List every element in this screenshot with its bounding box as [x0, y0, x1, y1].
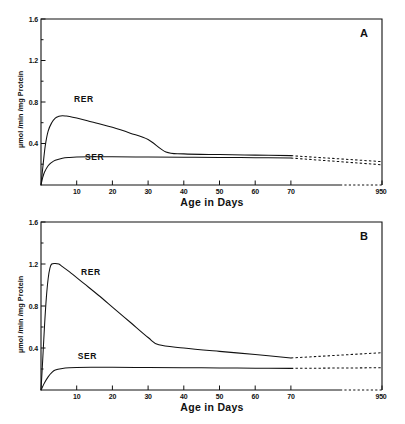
panel-a-y-axis-title: µmol /min /mg Protein [16, 71, 25, 148]
panel-b-xtick-60: 60 [252, 393, 260, 400]
panel-b-series-rer-dashed [291, 353, 382, 358]
panel-a-xtick-950: 950 [375, 188, 386, 195]
panel-a-series-ser-line [41, 157, 291, 185]
panel-a-series-label-rer: RER [74, 94, 94, 104]
panel-b-ytick-4: 0.4 [29, 345, 38, 352]
panel-a-xtick-60: 60 [252, 188, 260, 195]
figure-two-panel-chart: 1.6 1.2 0.8 0.4 µmol /min /mg Protein 10… [0, 0, 405, 424]
panel-a-x-axis-title: Age in Days [180, 196, 243, 208]
panel-a-xtick-10: 10 [73, 188, 81, 195]
panel-b-xtick-20: 20 [109, 393, 117, 400]
panel-b-ytick-2: 1.2 [29, 261, 38, 268]
panel-b-ytick-1: 1.6 [29, 219, 38, 226]
panel-a-ytick-4: 0.4 [29, 140, 38, 147]
chart-panel-a: 1.6 1.2 0.8 0.4 µmol /min /mg Protein 10… [0, 0, 405, 212]
panel-a-series-label-ser: SER [85, 152, 104, 162]
panel-a-series-rer-dashed [291, 156, 382, 162]
panel-a-xtick-40: 40 [180, 188, 188, 195]
panel-b-x-ticks [77, 386, 382, 391]
panel-b-series-label-rer: RER [81, 267, 101, 277]
panel-a-xtick-50: 50 [216, 188, 224, 195]
panel-b-ytick-3: 0.8 [29, 303, 38, 310]
panel-b-plot-frame [41, 222, 382, 390]
panel-b-series-rer-line [41, 263, 291, 390]
panel-b-xtick-10: 10 [73, 393, 81, 400]
panel-a-series-rer-line [41, 116, 291, 185]
panel-a-xtick-70: 70 [287, 188, 295, 195]
panel-a-xtick-20: 20 [109, 188, 117, 195]
panel-b-xtick-950: 950 [375, 393, 386, 400]
panel-a-ytick-1: 1.6 [29, 16, 38, 23]
panel-a-x-ticks [77, 181, 382, 186]
panel-b-x-axis-title: Age in Days [180, 401, 243, 413]
panel-a-ytick-2: 1.2 [29, 57, 38, 64]
panel-b-series-label-ser: SER [78, 351, 97, 361]
panel-b-letter: B [360, 230, 368, 242]
panel-b-y-axis-title: µmol /min /mg Protein [16, 276, 25, 353]
panel-a-y-ticks [41, 19, 46, 164]
panel-b-series-ser-dashed [291, 368, 382, 369]
panel-b-xtick-40: 40 [180, 393, 188, 400]
chart-panel-b: 1.6 1.2 0.8 0.4 µmol /min /mg Protein 10… [0, 212, 405, 424]
panel-b-xtick-50: 50 [216, 393, 224, 400]
panel-b-series-ser-line [41, 367, 291, 390]
panel-b-xtick-30: 30 [144, 393, 152, 400]
panel-a-xtick-30: 30 [144, 188, 152, 195]
panel-a-series-ser-dashed [291, 158, 382, 165]
panel-a-ytick-3: 0.8 [29, 99, 38, 106]
panel-a-svg: 1.6 1.2 0.8 0.4 µmol /min /mg Protein 10… [0, 0, 405, 212]
panel-b-xtick-70: 70 [287, 393, 295, 400]
panel-b-svg: 1.6 1.2 0.8 0.4 µmol /min /mg Protein 10… [0, 212, 405, 424]
panel-a-letter: A [360, 27, 368, 39]
